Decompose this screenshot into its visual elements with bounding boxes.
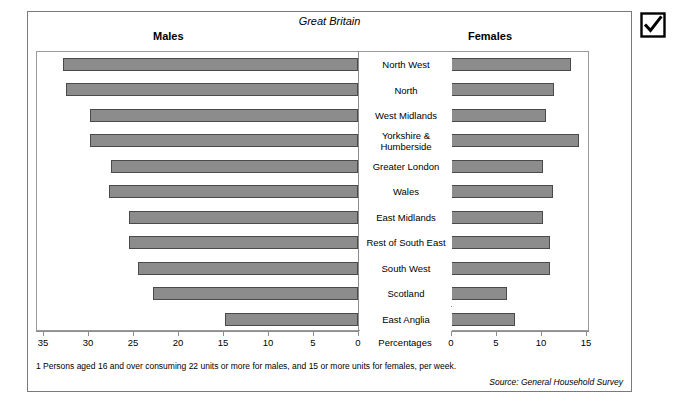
axis-tick-label: 10 [263, 337, 274, 348]
bar-female [451, 262, 550, 275]
bar-male [111, 160, 359, 173]
bar-row: Wales [28, 179, 631, 204]
axis-tick [541, 331, 542, 336]
axis-tick [88, 331, 89, 336]
axis-tick [223, 331, 224, 336]
axis-tick-label: 35 [38, 337, 49, 348]
bar-female [451, 160, 543, 173]
bar-row: Greater London [28, 154, 631, 179]
axis-tick-label: 25 [128, 337, 139, 348]
country-title: Great Britain [28, 15, 631, 27]
bar-male [129, 211, 359, 224]
category-label: North West [360, 52, 452, 77]
axis-area: 35302520151050051015Percentages [28, 331, 631, 361]
category-label: West Midlands [360, 103, 452, 128]
axis-tick [496, 331, 497, 336]
bar-male [138, 262, 359, 275]
category-label: Greater London [360, 154, 452, 179]
bar-female [451, 109, 546, 122]
axis-tick [43, 331, 44, 336]
category-label: Wales [360, 179, 452, 204]
bar-row: Yorkshire & Humberside [28, 128, 631, 153]
bar-row: Rest of South East [28, 230, 631, 255]
axis-tick-label: 5 [493, 337, 498, 348]
bar-female [451, 83, 554, 96]
axis-tick-label: 5 [310, 337, 315, 348]
males-panel-header: Males [153, 30, 184, 42]
category-label: East Midlands [360, 205, 452, 230]
footnote-text: 1 Persons aged 16 and over consuming 22 … [36, 361, 456, 371]
bar-male [129, 236, 359, 249]
bar-female [451, 236, 550, 249]
bar-female [451, 287, 507, 300]
bar-row: South West [28, 256, 631, 281]
axis-tick-label: 0 [355, 337, 360, 348]
bar-male [109, 185, 358, 198]
category-label: South West [360, 256, 452, 281]
axis-tick [586, 331, 587, 336]
bar-row: North [28, 77, 631, 102]
axis-tick-label: 15 [218, 337, 229, 348]
axis-line [451, 331, 589, 332]
bar-female [451, 134, 579, 147]
category-label: East Anglia [360, 307, 452, 332]
axis-tick [133, 331, 134, 336]
axis-tick-label: 15 [581, 337, 592, 348]
category-label: North [360, 77, 452, 102]
bar-row: North West [28, 52, 631, 77]
axis-tick [451, 331, 452, 336]
bar-row: East Midlands [28, 205, 631, 230]
category-label: Rest of South East [360, 230, 452, 255]
axis-tick [268, 331, 269, 336]
chart-header: Great Britain Males Females [28, 12, 631, 52]
checkbox-checked-icon[interactable] [640, 12, 666, 38]
bar-female [451, 211, 543, 224]
bar-female [451, 313, 515, 326]
bar-row: West Midlands [28, 103, 631, 128]
axis-line [36, 331, 359, 332]
axis-tick [313, 331, 314, 336]
bar-female [451, 185, 553, 198]
category-label: Yorkshire & Humberside [360, 128, 452, 153]
bar-male [66, 83, 359, 96]
source-text: Source: General Household Survey [489, 377, 623, 387]
axis-tick-label: 0 [448, 337, 453, 348]
top-crop-artifact [70, 0, 250, 7]
axis-tick-label: 20 [173, 337, 184, 348]
bar-row: East Anglia [28, 307, 631, 332]
bar-female [451, 58, 571, 71]
axis-tick-label: 10 [536, 337, 547, 348]
axis-tick-label: 30 [83, 337, 94, 348]
bar-male [90, 109, 358, 122]
percentages-axis-label: Percentages [378, 337, 431, 348]
axis-tick [178, 331, 179, 336]
bar-male [153, 287, 358, 300]
axis-tick [358, 331, 359, 336]
bar-male [90, 134, 358, 147]
bar-row: Scotland [28, 281, 631, 306]
category-label: Scotland [360, 281, 452, 306]
females-panel-header: Females [468, 30, 512, 42]
bar-male [63, 58, 358, 71]
figure-container: Great Britain Males Females North WestNo… [27, 11, 632, 392]
bar-male [225, 313, 358, 326]
